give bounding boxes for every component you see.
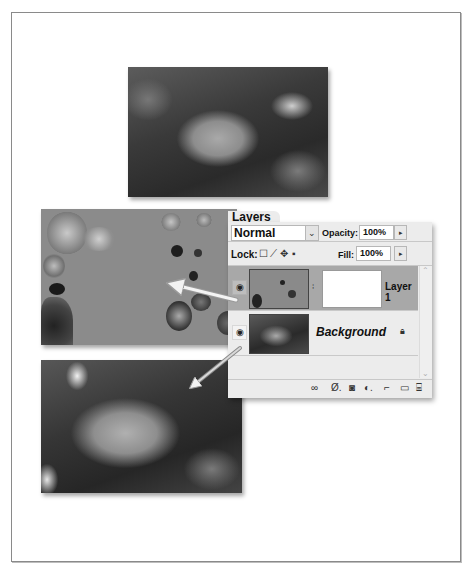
trash-icon[interactable]: ⌸ bbox=[416, 382, 422, 394]
dark-blob bbox=[41, 297, 73, 345]
eye-icon[interactable]: ◉ bbox=[232, 280, 247, 295]
layers-panel: Normal ⌄ Opacity: 100% ▸ Lock: ☐ ⟋ ✥ ▪ F… bbox=[228, 222, 432, 398]
dark-blob bbox=[171, 245, 183, 257]
mask-link-icon[interactable]: ⁞ bbox=[312, 282, 314, 291]
composite-photo bbox=[128, 67, 328, 197]
blend-opacity-row: Normal ⌄ Opacity: 100% ▸ bbox=[228, 224, 432, 242]
lock-image-icon[interactable]: ⟋ bbox=[270, 249, 277, 259]
dark-blob bbox=[288, 290, 296, 298]
layer-thumbnail bbox=[249, 269, 309, 309]
opacity-label: Opacity: bbox=[322, 228, 358, 238]
scroll-up-icon[interactable]: ⌃ bbox=[422, 266, 429, 275]
lock-label: Lock: bbox=[231, 249, 258, 260]
dark-blob bbox=[49, 283, 65, 295]
add-mask-icon[interactable]: ◙ bbox=[349, 382, 355, 394]
eye-icon[interactable]: ◉ bbox=[232, 325, 247, 340]
layer1-photo bbox=[41, 209, 237, 345]
layer-mask-thumbnail[interactable] bbox=[322, 270, 382, 308]
coral-blob bbox=[166, 301, 192, 331]
layer-name[interactable]: Background bbox=[316, 325, 386, 339]
lock-fill-row: Lock: ☐ ⟋ ✥ ▪ Fill: 100% ▸ bbox=[228, 243, 432, 266]
fill-slider-button[interactable]: ▸ bbox=[394, 246, 407, 261]
background-photo bbox=[41, 360, 242, 493]
dark-blob bbox=[280, 280, 285, 285]
scroll-down-icon[interactable]: ⌄ bbox=[422, 369, 429, 378]
coral-blob bbox=[161, 213, 181, 231]
panel-footer: ∞ Ø. ◙ ◐. ⌐ ▭ ⌸ bbox=[228, 379, 432, 396]
dark-blob bbox=[252, 294, 262, 308]
coral-blob bbox=[196, 213, 212, 227]
link-layers-icon[interactable]: ∞ bbox=[311, 382, 318, 394]
layer-row-background[interactable]: ◉ Background 🔒︎ bbox=[228, 311, 418, 356]
lock-all-icon[interactable]: ▪ bbox=[292, 249, 296, 259]
chevron-down-icon[interactable]: ⌄ bbox=[305, 225, 319, 241]
lock-icon: 🔒︎ bbox=[400, 326, 405, 337]
dark-blob bbox=[189, 271, 198, 281]
new-layer-icon[interactable]: ▭ bbox=[400, 382, 409, 394]
coral-blob bbox=[191, 293, 211, 311]
lock-position-icon[interactable]: ✥ bbox=[280, 249, 288, 259]
adjustment-layer-icon[interactable]: ◐. bbox=[364, 382, 373, 394]
coral-blob bbox=[47, 211, 87, 255]
layer-thumbnail bbox=[249, 314, 309, 354]
layer-name[interactable]: Layer 1 bbox=[385, 281, 418, 303]
coral-blob bbox=[43, 253, 65, 279]
fill-label: Fill: bbox=[338, 250, 354, 260]
lock-transparent-icon[interactable]: ☐ bbox=[259, 249, 268, 259]
layer-style-icon[interactable]: Ø. bbox=[331, 382, 342, 394]
blend-mode-select[interactable]: Normal bbox=[231, 225, 307, 241]
layer-row-layer1[interactable]: ◉ ⁞ Layer 1 bbox=[228, 266, 418, 311]
opacity-slider-button[interactable]: ▸ bbox=[394, 225, 407, 240]
coral-blob bbox=[81, 227, 117, 251]
fill-input[interactable]: 100% bbox=[356, 246, 391, 261]
layers-scrollbar[interactable]: ⌃ ⌄ bbox=[419, 266, 432, 378]
new-group-icon[interactable]: ⌐ bbox=[384, 382, 390, 394]
opacity-input[interactable]: 100% bbox=[359, 225, 394, 240]
dark-blob bbox=[194, 249, 202, 257]
